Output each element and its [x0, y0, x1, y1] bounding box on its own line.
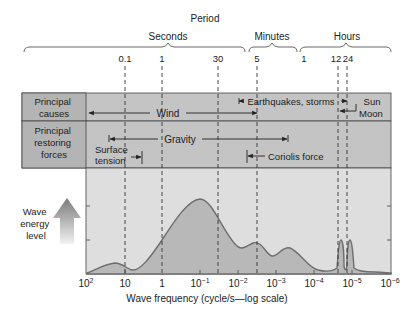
wind-label: Wind: [157, 108, 180, 119]
y-axis-label: Wave energy level: [20, 206, 52, 241]
period-tick-label: 0.1: [118, 53, 131, 64]
period-tick-label: 5: [254, 53, 259, 64]
energy-up-arrow-icon: [53, 198, 81, 244]
period-tick-label: 24: [343, 53, 354, 64]
svg-text:10−4: 10−4: [304, 277, 323, 289]
svg-text:102: 102: [78, 277, 93, 289]
period-tick-label: 1: [301, 53, 306, 64]
sun-label: Sun: [364, 96, 381, 107]
causes-label: Principal causes: [34, 96, 73, 119]
surface-tension-label: Surface tension: [95, 144, 130, 166]
svg-text:10−3: 10−3: [266, 277, 285, 289]
wave-energy-diagram: Period Seconds Minutes Hours 0.1 1 30 5 …: [0, 0, 415, 314]
svg-text:10−1: 10−1: [190, 277, 209, 289]
svg-text:10−6: 10−6: [380, 277, 399, 289]
svg-text:10−2: 10−2: [228, 277, 247, 289]
x-axis-labels: 102 10 1 10−1 10−2 10−3 10−4 10−5 10−6: [78, 277, 399, 289]
period-tick-label: 12: [331, 53, 342, 64]
period-braces: [24, 43, 391, 52]
earthquakes-label: Earthquakes, storms: [247, 96, 334, 107]
group-label-minutes: Minutes: [254, 31, 289, 42]
group-label-hours: Hours: [334, 31, 361, 42]
period-tick-label: 30: [213, 53, 224, 64]
moon-label: Moon: [359, 108, 383, 119]
period-title: Period: [191, 13, 220, 24]
svg-text:10: 10: [119, 278, 131, 289]
x-axis-title: Wave frequency (cycle/s—log scale): [126, 293, 287, 304]
svg-text:10−5: 10−5: [342, 277, 361, 289]
group-label-seconds: Seconds: [149, 31, 188, 42]
gravity-label: Gravity: [164, 134, 196, 145]
svg-text:1: 1: [159, 278, 165, 289]
period-tick-label: 1: [159, 53, 164, 64]
coriolis-label: Coriolis force: [268, 151, 323, 162]
